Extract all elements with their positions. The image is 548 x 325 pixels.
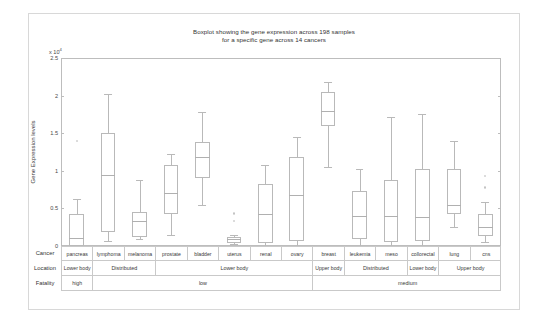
annotation-row-location: Lower bodyDistributedLower bodyUpper bod…: [61, 261, 501, 276]
y-tick-mark: [498, 208, 501, 209]
whisker-lower: [171, 214, 172, 235]
whisker-upper: [297, 137, 298, 157]
median-line: [195, 157, 209, 158]
annotation-cell: pancreas: [62, 247, 93, 260]
annotation-cell: renal: [251, 247, 282, 260]
cap-upper: [104, 94, 112, 95]
whisker-upper: [422, 114, 423, 169]
y-tick-mark: [61, 171, 64, 172]
figure-frame: Boxplot showing the gene expression acro…: [28, 13, 520, 310]
annotation-rows: pancreaslymphomamelanomaprostatebladderu…: [61, 246, 501, 291]
annotation-cell: Lower body: [408, 261, 439, 275]
outlier-point: [484, 175, 486, 177]
annotation-cell: lung: [439, 247, 470, 260]
whisker-lower: [108, 232, 109, 240]
annotation-table: CancerLocationFatality pancreaslymphomam…: [61, 246, 501, 291]
cap-lower: [198, 205, 206, 206]
median-line: [101, 175, 115, 176]
annotation-cell: ovary: [282, 247, 313, 260]
cap-upper: [73, 199, 81, 200]
box-iqr: [384, 180, 398, 242]
outlier-point: [76, 140, 78, 142]
y-tick-mark: [61, 96, 64, 97]
median-line: [478, 227, 492, 228]
cap-upper: [261, 165, 269, 166]
annotation-cell: Distributed: [345, 261, 408, 275]
cap-lower: [136, 239, 144, 240]
cap-upper: [418, 114, 426, 115]
outlier-point: [233, 212, 235, 214]
y-exponent-power: 4: [60, 47, 62, 52]
annotation-cell: melanoma: [125, 247, 156, 260]
boxplot-renal: [258, 58, 272, 246]
box-iqr: [415, 169, 429, 240]
cap-upper: [481, 202, 489, 203]
median-line: [227, 239, 241, 240]
y-tick-mark: [498, 96, 501, 97]
annotation-cell: Lower body: [62, 261, 93, 275]
whisker-upper: [360, 169, 361, 191]
y-tick-mark: [498, 171, 501, 172]
median-line: [164, 193, 178, 194]
whisker-lower: [202, 178, 203, 204]
y-tick-mark: [61, 133, 64, 134]
annotation-cell: cns: [471, 247, 502, 260]
axes-frame: [61, 58, 501, 246]
whisker-upper: [265, 165, 266, 185]
y-tick-mark: [498, 133, 501, 134]
box-iqr: [447, 169, 461, 214]
annotation-cell: Upper body: [439, 261, 502, 275]
boxplot-lung: [447, 58, 461, 246]
box-iqr: [164, 165, 178, 215]
boxplot-meso: [384, 58, 398, 246]
y-tick-mark: [498, 58, 501, 59]
box-iqr: [69, 214, 83, 246]
cap-upper: [356, 169, 364, 170]
annotation-cell: prostate: [156, 247, 187, 260]
box-iqr: [289, 157, 303, 241]
whisker-lower: [454, 214, 455, 227]
whisker-upper: [108, 94, 109, 133]
boxplot-leukemia: [352, 58, 366, 246]
median-line: [321, 111, 335, 112]
whisker-upper: [454, 141, 455, 170]
median-line: [258, 214, 272, 215]
box-iqr: [478, 214, 492, 237]
y-tick-mark: [61, 58, 64, 59]
whisker-upper: [202, 112, 203, 142]
median-line: [352, 216, 366, 217]
median-line: [132, 221, 146, 222]
whisker-lower: [328, 126, 329, 167]
box-iqr: [101, 133, 115, 232]
y-axis-label: Gene Expression levels: [30, 120, 36, 183]
annotation-row-labels: CancerLocationFatality: [29, 246, 61, 291]
y-tick-label: 1.5: [50, 130, 58, 136]
annotation-cell: medium: [313, 276, 502, 290]
box-iqr: [321, 92, 335, 126]
median-line: [289, 195, 303, 196]
annotation-cell: Upper body: [313, 261, 344, 275]
annotation-cell: Distributed: [93, 261, 156, 275]
cap-upper: [324, 82, 332, 83]
outlier-point: [233, 220, 235, 222]
cap-upper: [450, 141, 458, 142]
median-line: [415, 217, 429, 218]
cap-lower: [167, 235, 175, 236]
annotation-cell: collorectal: [408, 247, 439, 260]
annotation-cell: high: [62, 276, 93, 290]
boxplot-lymphoma: [101, 58, 115, 246]
whisker-upper: [391, 117, 392, 180]
whisker-upper: [140, 180, 141, 212]
cap-lower: [481, 242, 489, 243]
annotation-cell: breast: [313, 247, 344, 260]
median-line: [69, 238, 83, 239]
y-tick-label: 2: [55, 93, 58, 99]
boxplot-uterus: [227, 58, 241, 246]
annotation-cell: Lower body: [156, 261, 313, 275]
chart-title: Boxplot showing the gene expression acro…: [29, 28, 519, 45]
annotation-cell: low: [93, 276, 313, 290]
whisker-upper: [485, 202, 486, 213]
annotation-row-label-fatality: Fatality: [29, 276, 61, 291]
y-tick-label: 2.5: [50, 55, 58, 61]
box-iqr: [195, 142, 209, 178]
